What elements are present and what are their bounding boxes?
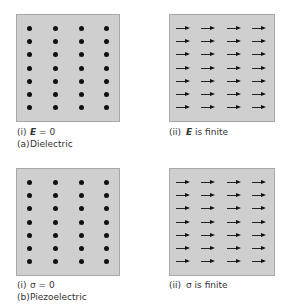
particle-dot-icon [53,52,58,57]
panel-piezoelectric-sigma-finite [169,168,275,276]
particle-dot-icon [53,39,58,44]
dipole-arrow-icon [176,26,191,31]
particle-dot-icon [53,26,58,31]
dipole-arrow-icon [252,92,267,97]
dipole-arrow-icon [201,79,216,84]
dipole-arrow-icon [227,92,242,97]
particle-dot-icon [53,66,58,71]
dipole-arrow-icon [252,233,267,238]
particle-dot-icon [27,246,32,251]
dipole-arrow-icon [176,79,191,84]
particle-dot-icon [79,79,84,84]
dipole-arrow-icon [252,39,267,44]
dipole-arrow-icon [201,52,216,57]
particle-dot-icon [53,246,58,251]
particle-dot-icon [53,193,58,198]
dipole-arrow-icon [201,66,216,71]
dipole-arrow-icon [252,193,267,198]
label-text: is finite [192,127,228,137]
dipole-arrow-icon [227,180,242,185]
particle-dot-icon [53,105,58,110]
particle-dot-icon [27,52,32,57]
particle-dot-icon [27,259,32,264]
particle-dot-icon [104,206,109,211]
label-piezoelectric-sigma-zero: (i)σ = 0 [17,280,55,291]
caption-piezoelectric: (b)Piezoelectric [17,292,87,303]
particle-dot-icon [104,233,109,238]
dipole-arrow-icon [176,105,191,110]
particle-dot-icon [104,39,109,44]
particle-dot-icon [53,206,58,211]
particle-dot-icon [79,193,84,198]
dipole-arrow-icon [176,66,191,71]
particle-dot-icon [104,79,109,84]
particle-dot-icon [53,259,58,264]
particle-dot-icon [104,105,109,110]
dipole-arrow-icon [176,206,191,211]
dipole-arrow-icon [227,233,242,238]
label-text: = 0 [36,280,55,290]
particle-dot-icon [27,66,32,71]
dipole-arrow-icon [227,52,242,57]
label-text: = 0 [36,127,55,137]
dipole-arrow-icon [227,206,242,211]
dipole-arrow-icon [201,26,216,31]
dipole-arrow-icon [201,39,216,44]
particle-dot-icon [104,259,109,264]
dipole-arrow-icon [201,220,216,225]
dipole-arrow-icon [227,246,242,251]
dipole-arrow-icon [252,26,267,31]
label-number: (ii) [169,127,186,138]
particle-dot-icon [79,180,84,185]
dipole-arrow-icon [252,259,267,264]
caption-number: (a) [17,139,30,150]
caption-dielectric: (a)Dielectric [17,139,73,150]
particle-dot-icon [27,79,32,84]
particle-dot-icon [104,52,109,57]
panel-dielectric-e-zero [16,14,120,122]
dipole-arrow-icon [227,220,242,225]
dipole-arrow-icon [201,246,216,251]
label-number: (i) [17,280,30,291]
particle-dot-icon [79,52,84,57]
particle-dot-icon [104,193,109,198]
particle-dot-icon [79,66,84,71]
dipole-arrow-icon [201,259,216,264]
label-number: (ii) [169,280,186,291]
dipole-arrow-icon [176,180,191,185]
dipole-arrow-icon [176,259,191,264]
particle-dot-icon [53,92,58,97]
dipole-arrow-icon [176,220,191,225]
particle-dot-icon [27,92,32,97]
caption-number: (b) [17,292,30,303]
particle-dot-icon [27,220,32,225]
particle-dot-icon [104,92,109,97]
particle-dot-icon [79,206,84,211]
particle-dot-icon [104,66,109,71]
particle-dot-icon [53,180,58,185]
dipole-arrow-icon [252,206,267,211]
particle-dot-icon [79,92,84,97]
particle-dot-icon [27,26,32,31]
particle-dot-icon [27,39,32,44]
dipole-arrow-icon [227,26,242,31]
label-dielectric-e-finite: (ii)E is finite [169,127,228,138]
dipole-arrow-icon [176,92,191,97]
particle-dot-icon [79,105,84,110]
dipole-arrow-icon [176,246,191,251]
dipole-arrow-icon [201,193,216,198]
dipole-arrow-icon [252,52,267,57]
particle-dot-icon [79,39,84,44]
dipole-arrow-icon [227,193,242,198]
dipole-arrow-icon [176,233,191,238]
caption-text: Piezoelectric [30,292,87,302]
particle-dot-icon [104,26,109,31]
particle-dot-icon [104,246,109,251]
particle-dot-icon [79,246,84,251]
label-piezoelectric-sigma-finite: (ii)σ is finite [169,280,228,291]
particle-dot-icon [104,220,109,225]
dipole-arrow-icon [252,66,267,71]
dipole-arrow-icon [201,105,216,110]
label-text: is finite [192,280,228,290]
dipole-arrow-icon [201,233,216,238]
